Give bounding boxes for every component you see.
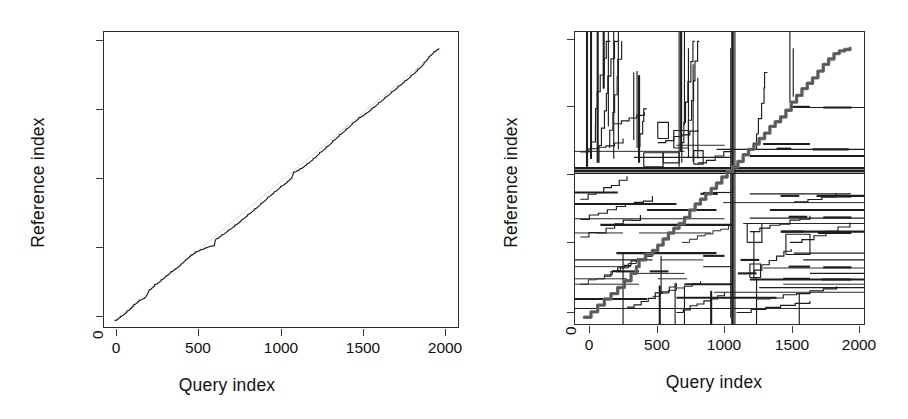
y-axis-label-right: Reference index [501, 93, 522, 273]
y-tick-right-1500 [567, 106, 574, 107]
x-tick-right-500 [657, 326, 658, 333]
x-axis-label-left: Query index [0, 375, 454, 396]
y-tick-right-1000 [567, 174, 574, 175]
x-tick-left-1000 [281, 329, 282, 336]
x-tick-label-left-1000: 1000 [264, 339, 298, 357]
y-tick-label-left-0: 0 [89, 330, 107, 339]
plot-area-right [574, 31, 865, 325]
x-tick-right-2000 [859, 326, 860, 333]
x-tick-right-1000 [724, 326, 725, 333]
y-tick-left-2000 [96, 40, 103, 41]
x-tick-left-500 [198, 329, 199, 336]
x-tick-right-1500 [792, 326, 793, 333]
y-tick-label-right-0: 0 [562, 326, 580, 335]
y-tick-left-0 [96, 316, 103, 317]
x-tick-label-left-500: 500 [185, 339, 211, 357]
panel-right: Reference index 0 500 1000 1500 2000 0 5… [454, 0, 908, 419]
y-tick-right-2000 [567, 39, 574, 40]
alignment-path-left [104, 32, 459, 328]
plot-area-left [103, 31, 459, 328]
x-tick-right-0 [589, 326, 590, 333]
y-tick-left-1500 [96, 109, 103, 110]
x-axis-label-right: Query index [514, 372, 908, 393]
x-tick-left-1500 [363, 329, 364, 336]
x-tick-left-2000 [445, 329, 446, 336]
x-tick-label-right-1000: 1000 [707, 336, 741, 354]
y-tick-right-500 [567, 242, 574, 243]
y-tick-right-0 [567, 312, 574, 313]
x-tick-label-right-500: 500 [644, 336, 670, 354]
x-tick-label-right-0: 0 [585, 336, 594, 354]
x-tick-left-0 [116, 329, 117, 336]
x-tick-label-right-1500: 1500 [775, 336, 809, 354]
panel-left: Reference index 0 500 1000 1500 2000 0 5… [0, 0, 454, 419]
figure-root: Reference index 0 500 1000 1500 2000 0 5… [0, 0, 908, 419]
y-axis-label-left: Reference index [28, 93, 49, 273]
x-tick-label-left-1500: 1500 [346, 339, 380, 357]
y-tick-left-500 [96, 247, 103, 248]
alignment-paths-right [575, 32, 865, 325]
x-tick-label-left-0: 0 [112, 339, 121, 357]
x-tick-label-right-2000: 2000 [842, 336, 876, 354]
y-tick-left-1000 [96, 178, 103, 179]
